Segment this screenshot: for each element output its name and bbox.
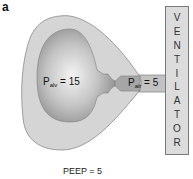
ventilator-letter: I [176,69,179,79]
ventilator-letter: R [173,138,180,148]
alveolar-pressure-value: = 15 [57,76,80,87]
ventilator-letter: T [174,55,180,65]
ventilator-box: V E N T I L A T O R [165,6,189,155]
alveolar-pressure-symbol: P [43,76,50,87]
ventilator-letter: E [174,27,181,37]
alveolar-pressure-label: Palv = 15 [43,76,80,88]
airway-pressure-value: = 5 [141,77,158,88]
ventilator-letter: N [173,41,180,51]
airway-pressure-label: Pair = 5 [128,77,158,89]
peep-label: PEEP = 5 [63,166,102,176]
ventilator-letter: T [174,110,180,120]
ventilator-letter: A [174,96,181,106]
ventilator-letter: L [174,82,180,92]
ventilator-letter: V [174,13,181,23]
ventilator-letter: O [173,124,181,134]
airway-pressure-symbol: P [128,77,135,88]
